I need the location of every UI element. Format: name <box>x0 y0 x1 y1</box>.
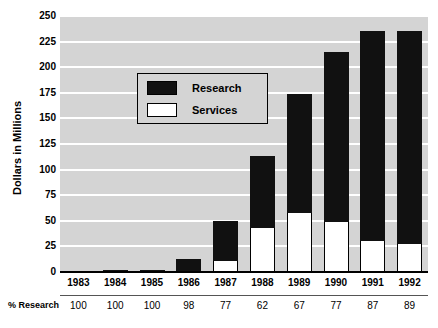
bar-segment-services <box>287 213 312 272</box>
bar-segment-research <box>360 31 385 241</box>
pct-research-value: 100 <box>97 300 134 311</box>
chart-container: Dollars in Millions 02550751001251501752… <box>0 0 438 328</box>
y-axis-tick-label: 200 <box>39 62 56 72</box>
x-axis-tick-label: 1983 <box>60 277 97 288</box>
bar-segment-research <box>397 31 422 244</box>
y-axis-tick-labels: 0255075100125150175200225250 <box>22 0 56 290</box>
y-axis-tick-label: 250 <box>39 11 56 21</box>
bar-1989 <box>287 94 312 272</box>
pct-research-value: 67 <box>281 300 318 311</box>
x-axis-tick-label: 1985 <box>134 277 171 288</box>
plot-area: Research Services <box>60 16 428 272</box>
x-axis-tick-label: 1992 <box>391 277 428 288</box>
bar-segment-services <box>397 244 422 272</box>
chart-legend: Research Services <box>137 73 268 124</box>
pct-research-value: 100 <box>60 300 97 311</box>
bar-1986 <box>176 259 201 272</box>
legend-label-research: Research <box>192 82 242 94</box>
bar-segment-services <box>360 241 385 272</box>
pct-research-value: 77 <box>207 300 244 311</box>
bar-segment-research <box>324 52 349 222</box>
x-axis-tick-label: 1989 <box>281 277 318 288</box>
bar-1992 <box>397 31 422 272</box>
pct-research-value: 62 <box>244 300 281 311</box>
x-axis-tick-label: 1986 <box>170 277 207 288</box>
x-axis-tick-label: 1987 <box>207 277 244 288</box>
x-axis-tick-label: 1991 <box>354 277 391 288</box>
bar-segment-services <box>250 228 275 272</box>
light-swatch-icon <box>147 103 177 117</box>
y-axis-tick-label: 175 <box>39 88 56 98</box>
y-axis-tick-label: 50 <box>45 216 56 226</box>
y-axis-tick-label: 25 <box>45 241 56 251</box>
pct-research-value: 77 <box>318 300 355 311</box>
y-axis-tick-label: 125 <box>39 139 56 149</box>
x-axis-tick-label: 1988 <box>244 277 281 288</box>
pct-research-value: 100 <box>134 300 171 311</box>
bar-segment-research <box>250 156 275 228</box>
y-axis-tick-label: 100 <box>39 165 56 175</box>
pct-research-row-label: % Research <box>8 300 59 310</box>
bar-1990 <box>324 52 349 272</box>
legend-item-research: Research <box>147 81 242 95</box>
dark-swatch-icon <box>147 81 177 95</box>
x-axis-tick-label: 1990 <box>318 277 355 288</box>
legend-item-services: Services <box>147 103 237 117</box>
x-axis-tick-label: 1984 <box>97 277 134 288</box>
x-axis-baseline <box>60 271 428 273</box>
pct-research-values: 10010010098776267778789 <box>60 300 428 314</box>
bar-segment-research <box>213 221 238 261</box>
bar-1991 <box>360 31 385 272</box>
bar-segment-research <box>176 259 201 272</box>
legend-label-services: Services <box>192 104 237 116</box>
x-axis-tick-labels: 1983198419851986198719881989199019911992 <box>60 277 428 293</box>
bar-1987 <box>213 221 238 272</box>
annotation-divider <box>60 295 428 296</box>
y-axis-tick-label: 0 <box>50 267 56 277</box>
pct-research-value: 89 <box>391 300 428 311</box>
y-axis-tick-label: 225 <box>39 37 56 47</box>
bar-1988 <box>250 156 275 272</box>
bar-series-group <box>60 16 428 272</box>
bar-segment-services <box>324 222 349 272</box>
pct-research-value: 87 <box>354 300 391 311</box>
pct-research-value: 98 <box>170 300 207 311</box>
y-axis-tick-label: 75 <box>45 190 56 200</box>
bar-segment-research <box>287 94 312 213</box>
y-axis-tick-label: 150 <box>39 113 56 123</box>
